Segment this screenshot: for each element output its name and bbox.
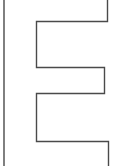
letter-e-outline-icon	[0, 0, 115, 166]
letter-e-outline-canvas	[0, 0, 115, 166]
letter-e-outline-path	[4, 0, 109, 166]
